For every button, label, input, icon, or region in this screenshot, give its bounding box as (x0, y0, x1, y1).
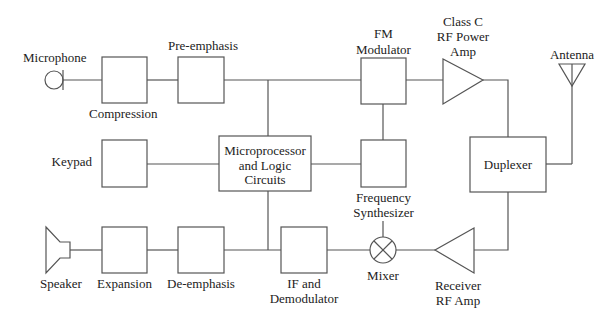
antenna-label: Antenna (550, 47, 594, 62)
mixer-label: Mixer (367, 268, 399, 283)
speaker-label: Speaker (40, 276, 83, 291)
duplexer-label: Duplexer (484, 157, 533, 172)
wire (483, 80, 508, 137)
if-demodulator-label-1: IF and (287, 276, 321, 291)
frequency-synthesizer-label-1: Frequency (356, 190, 411, 205)
expansion-label: Expansion (97, 276, 152, 291)
de-emphasis-block (178, 227, 224, 273)
class-c-amp-label-3: Amp (450, 44, 476, 59)
if-demodulator-block (281, 227, 327, 273)
fm-modulator-label-2: Modulator (356, 42, 412, 57)
class-c-amp-icon (443, 59, 483, 104)
class-c-amp-label-2: RF Power (437, 29, 490, 44)
receiver-amp-icon (435, 228, 474, 273)
pre-emphasis-block (178, 57, 224, 103)
expansion-block (102, 227, 147, 273)
microprocessor-label-1: Microprocessor (224, 143, 306, 158)
mixer-icon (370, 237, 396, 263)
receiver-amp-label-1: Receiver (435, 278, 482, 293)
if-demodulator-label-2: Demodulator (270, 291, 339, 306)
fm-modulator-block (361, 58, 406, 104)
speaker-icon (46, 227, 70, 273)
de-emphasis-label: De-emphasis (167, 276, 235, 291)
receiver-amp-label-2: RF Amp (436, 293, 480, 308)
antenna-icon (559, 64, 585, 164)
keypad-label: Keypad (52, 154, 93, 169)
compression-label: Compression (89, 106, 158, 121)
frequency-synthesizer-block (361, 140, 406, 187)
wire (474, 192, 508, 250)
frequency-synthesizer-label-2: Synthesizer (353, 205, 414, 220)
microprocessor-label-2: and Logic (239, 158, 292, 173)
class-c-amp-label-1: Class C (443, 14, 483, 29)
compression-block (102, 57, 147, 103)
transceiver-block-diagram: Microphone Compression Pre-emphasis FM M… (0, 0, 613, 320)
microprocessor-label-3: Circuits (244, 172, 285, 187)
microphone-icon (45, 70, 63, 90)
fm-modulator-label-1: FM (374, 26, 393, 41)
pre-emphasis-label: Pre-emphasis (168, 38, 238, 53)
microphone-label: Microphone (23, 50, 87, 65)
keypad-block (102, 140, 147, 187)
